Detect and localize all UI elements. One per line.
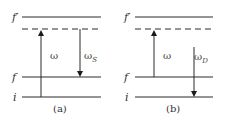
- caption-b: (b): [166, 103, 180, 114]
- panel-b: f′ f i ω ωD (b): [123, 11, 213, 114]
- level-label-f: f: [11, 71, 18, 84]
- panel-a: f′ f i ω ωS (a): [11, 11, 101, 114]
- caption-a: (a): [53, 103, 67, 114]
- level-label-f-prime: f′: [123, 11, 131, 24]
- level-label-f-prime: f′: [11, 11, 19, 24]
- omega-label: ω: [50, 50, 58, 61]
- level-label-i: i: [13, 91, 17, 104]
- omega-s-label: ωS: [84, 50, 97, 64]
- level-label-f: f: [123, 71, 130, 84]
- omega-label: ω: [163, 50, 171, 61]
- omega-d-label: ωD: [194, 51, 208, 65]
- energy-level-diagram: f′ f i ω ωS (a) f′ f i ω ωD (b): [0, 0, 226, 118]
- level-label-i: i: [125, 91, 129, 104]
